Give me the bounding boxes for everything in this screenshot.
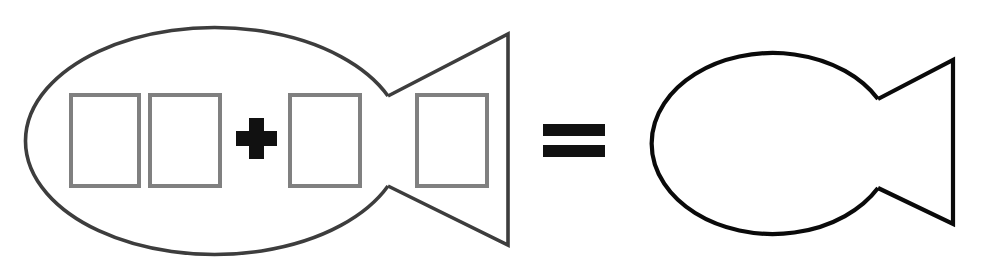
right-fish-tail-outline	[878, 60, 953, 224]
equals-icon-bar-bottom	[543, 145, 605, 157]
left-fish-body-outline	[25, 27, 388, 254]
slot-rectangle-3[interactable]	[290, 95, 360, 186]
slot-rectangle-4[interactable]	[417, 95, 487, 186]
diagram-canvas	[0, 0, 986, 262]
right-fish-body-outline	[652, 53, 878, 234]
left-fish-tail-outline	[388, 34, 508, 245]
equals-icon-bar-top	[543, 124, 605, 136]
slot-rectangle-1[interactable]	[71, 95, 139, 186]
equals-sign-group	[543, 124, 605, 157]
right-fish-group[interactable]	[652, 53, 953, 234]
fish-equation-figure	[0, 0, 986, 262]
left-fish-slot-group	[71, 95, 487, 186]
slot-rectangle-2[interactable]	[150, 95, 220, 186]
plus-icon	[236, 118, 277, 159]
left-fish-group[interactable]	[25, 27, 508, 254]
